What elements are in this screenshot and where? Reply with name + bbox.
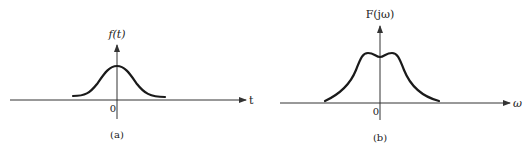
panel-b: F(jω) ω 0 (b) bbox=[280, 8, 522, 143]
x-label-b: ω bbox=[513, 97, 522, 110]
diagram-canvas: f(t) t 0 (a) F(jω) ω 0 (b) bbox=[0, 0, 525, 151]
curve-f-t bbox=[73, 66, 165, 97]
caption-a: (a) bbox=[110, 129, 124, 140]
panel-a: f(t) t 0 (a) bbox=[10, 28, 254, 140]
caption-b: (b) bbox=[373, 132, 387, 143]
curve-F-jw bbox=[325, 53, 439, 101]
y-label-a: f(t) bbox=[107, 28, 125, 41]
origin-label-a: 0 bbox=[110, 103, 116, 114]
x-label-a: t bbox=[249, 94, 254, 107]
origin-label-b: 0 bbox=[373, 106, 379, 117]
y-label-b: F(jω) bbox=[366, 8, 395, 21]
